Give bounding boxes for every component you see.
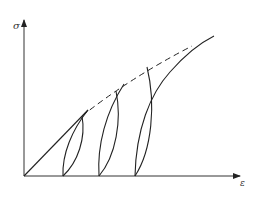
envelope-dashed-curve	[82, 46, 192, 116]
stress-strain-diagram: σ ε	[0, 0, 262, 218]
monotonic-loading-curve	[135, 36, 214, 176]
x-axis-label-epsilon: ε	[240, 179, 245, 188]
diagram-canvas	[0, 0, 262, 218]
hysteresis-loop-1	[63, 110, 88, 176]
y-axis-label-sigma: σ	[13, 21, 20, 31]
axes	[24, 20, 240, 176]
loop-1-reloading	[63, 110, 88, 176]
loop-2-reloading	[99, 84, 124, 176]
hysteresis-loop-2	[99, 84, 124, 176]
loop-2-unloading	[99, 91, 118, 176]
initial-loading-line	[24, 110, 88, 176]
